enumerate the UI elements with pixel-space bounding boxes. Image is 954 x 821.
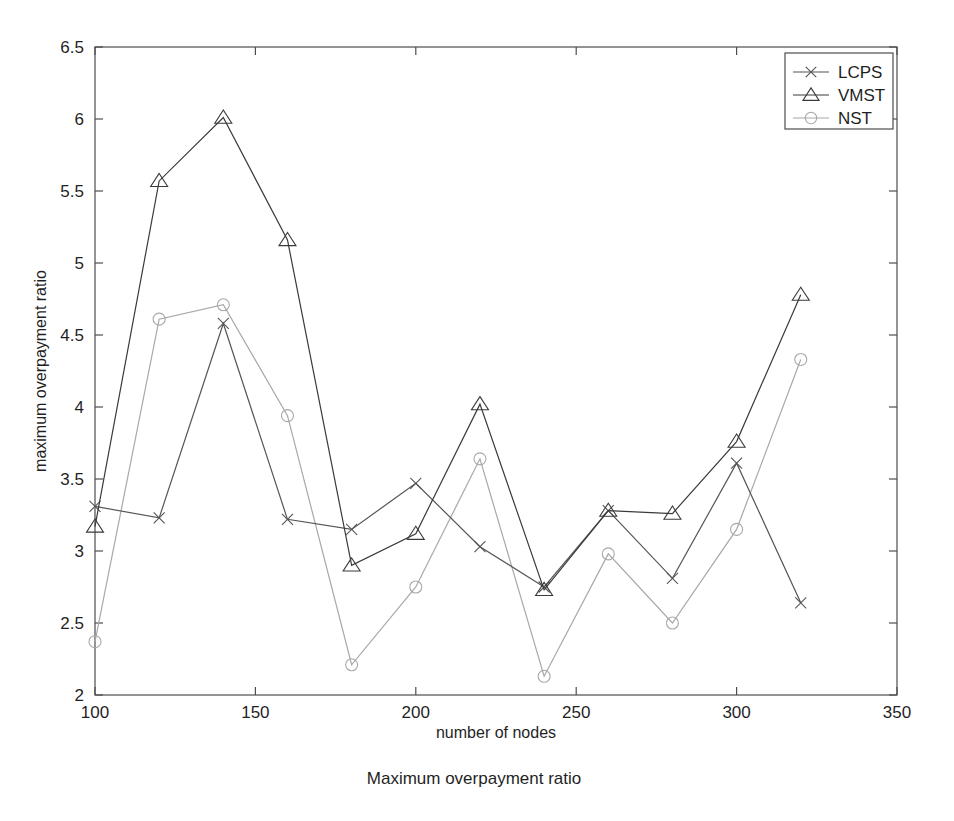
- x-marker-icon: [154, 512, 165, 523]
- y-axis-ticks: 22.533.544.555.566.5: [60, 38, 897, 705]
- x-tick-label: 100: [81, 703, 109, 722]
- series-nst: [89, 299, 807, 683]
- legend-label-nst: NST: [838, 109, 872, 128]
- x-marker-icon: [410, 478, 421, 489]
- x-tick-label: 350: [883, 703, 911, 722]
- y-axis-title: maximum overpayment ratio: [32, 270, 49, 472]
- y-tick-label: 3: [75, 542, 84, 561]
- y-tick-label: 5.5: [60, 182, 84, 201]
- y-tick-label: 2: [75, 686, 84, 705]
- y-tick-label: 4.5: [60, 326, 84, 345]
- y-tick-label: 4: [75, 398, 84, 417]
- series-line-nst: [95, 305, 801, 677]
- x-marker-icon: [218, 318, 229, 329]
- y-tick-label: 6.5: [60, 38, 84, 57]
- x-tick-label: 300: [722, 703, 750, 722]
- series-lcps: [90, 318, 807, 608]
- x-marker-icon: [474, 541, 485, 552]
- x-tick-label: 250: [562, 703, 590, 722]
- y-tick-label: 2.5: [60, 614, 84, 633]
- figure-container: 100150200250300350 22.533.544.555.566.5 …: [0, 0, 954, 821]
- y-tick-label: 3.5: [60, 470, 84, 489]
- triangle-marker-icon: [600, 503, 617, 516]
- chart-legend[interactable]: LCPSVMSTNST: [785, 53, 893, 129]
- figure-caption: Maximum overpayment ratio: [367, 769, 581, 788]
- triangle-marker-icon: [792, 287, 809, 300]
- x-marker-icon: [731, 458, 742, 469]
- chart-canvas: 100150200250300350 22.533.544.555.566.5 …: [0, 0, 954, 821]
- plot-frame: [95, 47, 897, 695]
- x-axis-ticks: 100150200250300350: [81, 47, 911, 722]
- legend-label-vmst: VMST: [838, 86, 885, 105]
- data-series-group: [87, 110, 810, 682]
- x-tick-label: 150: [241, 703, 269, 722]
- legend-label-lcps: LCPS: [838, 63, 882, 82]
- series-line-lcps: [95, 323, 801, 602]
- y-tick-label: 6: [75, 110, 84, 129]
- triangle-marker-icon: [215, 110, 232, 123]
- series-line-vmst: [95, 118, 801, 590]
- y-tick-label: 5: [75, 254, 84, 273]
- x-marker-icon: [795, 597, 806, 608]
- x-marker-icon: [667, 573, 678, 584]
- x-tick-label: 200: [402, 703, 430, 722]
- triangle-marker-icon: [664, 506, 681, 519]
- x-axis-title: number of nodes: [436, 724, 556, 741]
